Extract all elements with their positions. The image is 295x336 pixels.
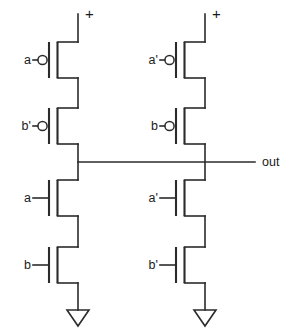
left-pmos-interconnect: [58, 78, 79, 108]
gate-label-left-pmos-1: a: [0, 54, 31, 67]
right-nmos-bnot: [160, 247, 205, 283]
left-pmos-a: [33, 42, 78, 78]
inverting-bubble-icon: [165, 55, 174, 64]
left-ground-symbol: [67, 283, 89, 326]
output-label: out: [262, 156, 280, 169]
vdd-plus-left: +: [85, 6, 94, 21]
right-pmos-anot: [160, 42, 205, 78]
gate-label-right-nmos-2: b': [127, 259, 158, 272]
gate-label-left-nmos-2: b: [0, 259, 31, 272]
gate-label-left-nmos-1: a: [0, 192, 31, 205]
left-nmos-a: [33, 180, 78, 216]
circuit-schematic-canvas: + + a b' a b a' b a' b' out: [0, 0, 295, 336]
circuit-schematic-svg: [0, 0, 295, 336]
vdd-plus-right: +: [212, 6, 221, 21]
right-pmos-b: [160, 108, 205, 144]
right-pmos-interconnect: [185, 78, 206, 108]
left-pmos-bnot: [33, 108, 78, 144]
inverting-bubble-icon: [38, 121, 47, 130]
inverting-bubble-icon: [165, 121, 174, 130]
right-nmos-anot: [160, 180, 205, 216]
right-vdd-rail: [185, 14, 206, 42]
right-nmos-interconnect: [185, 216, 206, 247]
gate-label-right-nmos-1: a': [127, 192, 158, 205]
left-nmos-interconnect: [58, 216, 79, 247]
gate-label-left-pmos-2: b': [0, 120, 31, 133]
right-ground-symbol: [194, 283, 216, 326]
left-vdd-rail: [58, 14, 79, 42]
gate-label-right-pmos-2: b: [127, 120, 158, 133]
gate-label-right-pmos-1: a': [127, 54, 158, 67]
left-nmos-b: [33, 247, 78, 283]
inverting-bubble-icon: [38, 55, 47, 64]
